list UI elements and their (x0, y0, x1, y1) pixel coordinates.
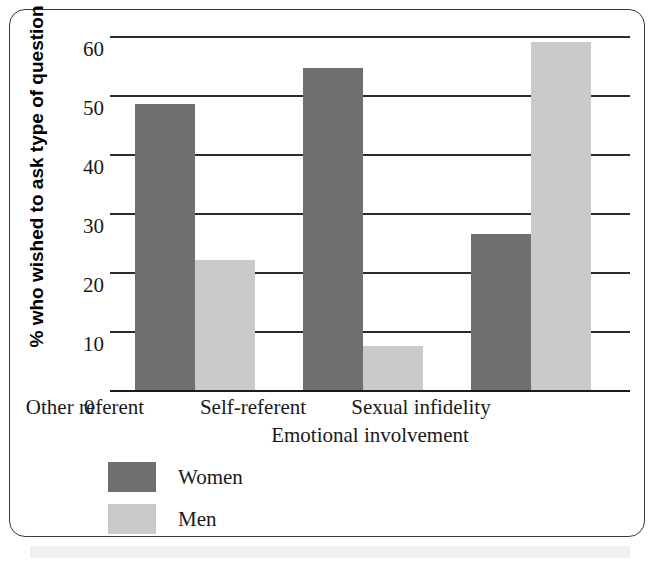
bar-men-0 (195, 260, 255, 390)
y-tick-label-40: 40 (83, 157, 104, 178)
y-tick-label-30: 30 (83, 216, 104, 237)
y-tick-label-10: 10 (83, 334, 104, 355)
x-axis-baseline (110, 390, 630, 392)
chart-legend: WomenMen (108, 462, 243, 546)
y-tick-label-20: 20 (83, 275, 104, 296)
bar-women-2 (471, 234, 531, 390)
bar-chart: % who wished to ask type of question 102… (0, 0, 661, 564)
plot-area: 102030405060 (110, 36, 630, 390)
y-tick-label-50: 50 (83, 98, 104, 119)
x-category-label-2: Sexual infidelity (311, 396, 531, 419)
legend-swatch-women (108, 462, 156, 492)
legend-label-women: Women (178, 467, 243, 488)
legend-item-women[interactable]: Women (108, 462, 243, 492)
bar-women-1 (303, 68, 363, 390)
y-tick-label-60: 60 (83, 39, 104, 60)
x-axis-title: Emotional involvement (110, 424, 630, 447)
legend-swatch-men (108, 504, 156, 534)
y-axis-title: % who wished to ask type of question (27, 28, 46, 348)
bar-men-2 (531, 42, 591, 390)
legend-item-men[interactable]: Men (108, 504, 243, 534)
legend-label-men: Men (178, 509, 217, 530)
gridline-60 (110, 36, 630, 38)
chart-page: % who wished to ask type of question 102… (0, 0, 661, 564)
bar-women-0 (135, 104, 195, 390)
bar-men-1 (363, 346, 423, 390)
